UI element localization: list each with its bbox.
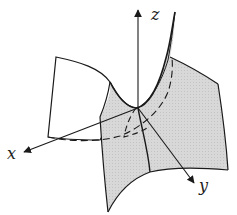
saddle-surface-diagram: z x y <box>0 0 237 215</box>
z-axis-label: z <box>150 5 160 24</box>
shaded-surface <box>100 12 228 212</box>
y-axis-label: y <box>198 176 209 195</box>
x-axis-label: x <box>7 144 16 163</box>
